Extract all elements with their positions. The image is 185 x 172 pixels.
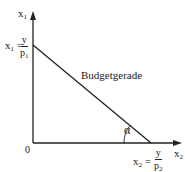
x-intercept-denominator: p2 [154, 160, 163, 172]
x-axis-label-sub: 2 [180, 153, 184, 161]
x-intercept-lhs-sub: 2 [139, 161, 143, 169]
budget-line [33, 45, 151, 143]
x-intercept-eq: = [145, 155, 151, 167]
angle-label: α [124, 124, 130, 136]
budget-line-label: Budgetgerade [81, 70, 142, 81]
y-intercept-numerator: y [21, 35, 28, 47]
y-intercept-lhs-sub: 1 [11, 45, 15, 53]
y-axis-label: x1 [18, 8, 27, 21]
y-intercept-denominator: p1 [20, 47, 29, 60]
x-intercept-fraction: y p2 [154, 148, 163, 172]
x-intercept-den-sub: 2 [159, 165, 163, 172]
x-intercept-numerator: y [155, 148, 162, 160]
x-axis-arrow-icon [173, 140, 182, 146]
x-intercept-label: x2 = [133, 156, 151, 169]
y-axis-arrow-icon [30, 11, 36, 20]
y-intercept-fraction: y p1 [20, 35, 29, 60]
y-intercept-den-sub: 1 [25, 52, 29, 60]
origin-label: 0 [25, 145, 30, 155]
x-axis-label: x2 [174, 148, 183, 161]
y-axis-label-sub: 1 [24, 13, 28, 21]
